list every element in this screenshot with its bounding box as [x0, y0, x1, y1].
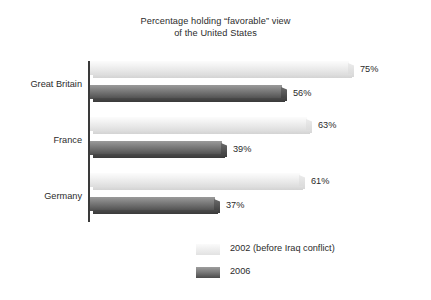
- bar-body: [90, 141, 222, 155]
- bar-base: [93, 98, 285, 102]
- bar-base: [93, 130, 310, 134]
- category-group-germany: Germany 61% 37%: [0, 170, 431, 226]
- bar-france-2002: [90, 117, 312, 134]
- bar-value-france-2006: 39%: [233, 144, 251, 154]
- bar-great-britain-2002: [90, 61, 354, 78]
- category-group-france: France 63% 39%: [0, 114, 431, 170]
- bar-germany-2006: [90, 197, 220, 214]
- category-label-germany: Germany: [0, 191, 82, 201]
- legend-swatch-2002-icon: [196, 244, 220, 255]
- bar-body: [90, 85, 282, 99]
- bar-chart-figure: Percentage holding “favorable” view of t…: [0, 0, 431, 300]
- bar-body: [90, 173, 300, 187]
- bar-value-germany-2006: 37%: [226, 200, 244, 210]
- bar-body: [90, 197, 215, 211]
- chart-title-line-1: Percentage holding “favorable” view: [0, 16, 431, 28]
- category-label-great-britain: Great Britain: [0, 79, 82, 89]
- plot-area: Great Britain 75% 56% France 63%: [0, 58, 431, 226]
- bar-body: [90, 61, 349, 75]
- bar-base: [93, 210, 218, 214]
- bar-value-germany-2002: 61%: [311, 176, 329, 186]
- bar-value-great-britain-2002: 75%: [360, 64, 378, 74]
- bar-base: [93, 74, 352, 78]
- category-group-great-britain: Great Britain 75% 56%: [0, 58, 431, 114]
- chart-title-line-2: of the United States: [0, 28, 431, 40]
- bar-base: [93, 186, 303, 190]
- bar-france-2006: [90, 141, 227, 158]
- bar-value-great-britain-2006: 56%: [293, 88, 311, 98]
- legend-label-2006: 2006: [230, 266, 250, 276]
- bar-value-france-2002: 63%: [318, 120, 336, 130]
- bar-great-britain-2006: [90, 85, 287, 102]
- bar-body: [90, 117, 307, 131]
- chart-title: Percentage holding “favorable” view of t…: [0, 16, 431, 39]
- legend-swatch-2006-icon: [196, 267, 220, 278]
- category-label-france: France: [0, 135, 82, 145]
- bar-base: [93, 154, 225, 158]
- legend-label-2002: 2002 (before Iraq conflict): [230, 243, 335, 253]
- bar-germany-2002: [90, 173, 305, 190]
